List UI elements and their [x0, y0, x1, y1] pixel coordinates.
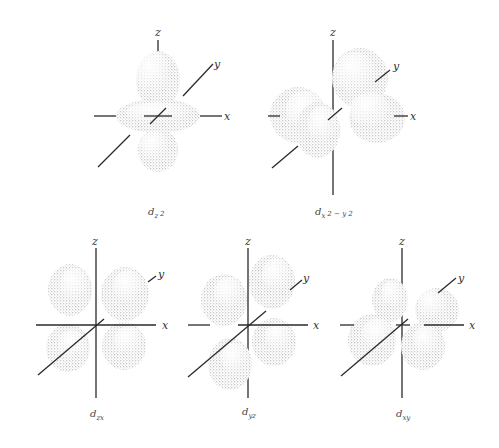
orbital-dxy: z x y dxy	[340, 235, 476, 422]
caption-dxy: dxy	[396, 408, 411, 422]
z-label: z	[329, 26, 336, 39]
y-label: y	[392, 60, 400, 73]
caption-dz2: dz2	[148, 206, 165, 220]
caption-dyz: dyz	[242, 406, 256, 420]
x-label: x	[410, 110, 417, 123]
z-label: z	[154, 26, 161, 39]
y-axis-upper	[148, 276, 156, 282]
x-label: x	[162, 319, 169, 332]
y-label: y	[302, 272, 310, 285]
z-label: z	[398, 235, 405, 248]
orbital-dz2: z x y dz2	[94, 26, 231, 220]
caption-dx2-y2: dx2 − y 2	[315, 206, 353, 220]
orbital-dyz: z x y dyz	[188, 235, 320, 420]
orbital-diagram: z x y dz2 z x y dx2 − y 2	[0, 0, 499, 448]
x-label: x	[224, 110, 231, 123]
y-axis-lower	[272, 146, 298, 168]
caption-dzx: dzx	[90, 408, 104, 422]
orbital-dzx: z x y dzx	[36, 235, 169, 422]
y-axis-upper	[183, 64, 213, 96]
y-label: y	[157, 268, 165, 281]
y-label: y	[213, 58, 221, 71]
x-label: x	[469, 319, 476, 332]
z-label: z	[91, 235, 98, 248]
orbital-dx2-y2: z x y dx2 − y 2	[268, 26, 417, 220]
y-axis-lower	[98, 135, 130, 167]
z-label: z	[244, 235, 251, 248]
x-label: x	[313, 319, 320, 332]
y-label: y	[457, 272, 465, 285]
